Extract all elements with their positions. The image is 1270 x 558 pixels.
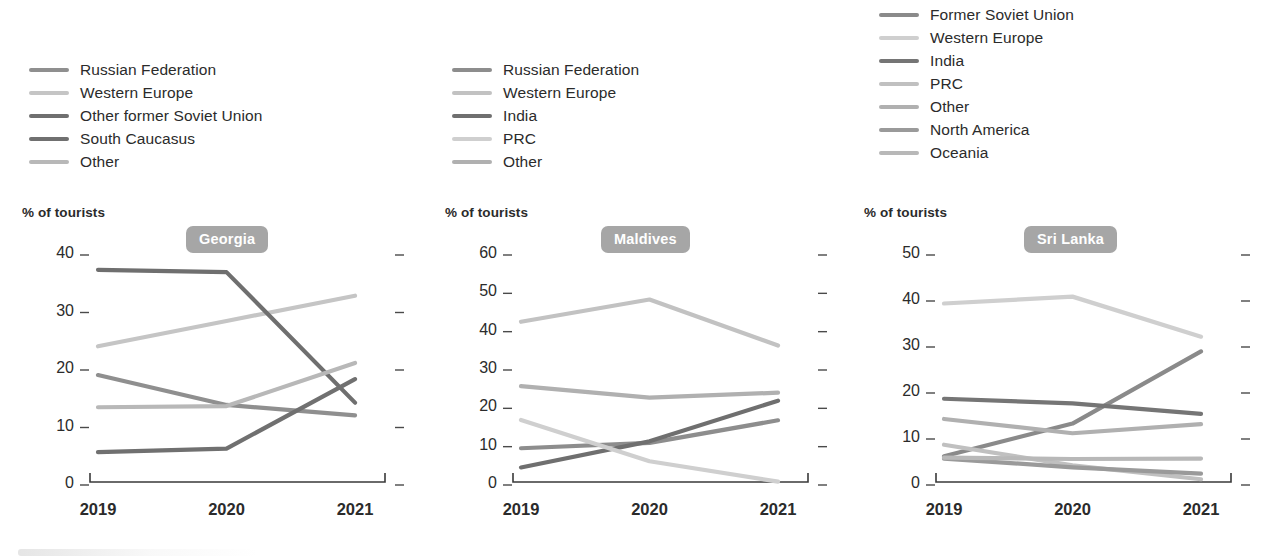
- series-line: [521, 300, 778, 346]
- legend-swatch-icon: [879, 59, 919, 63]
- legend-item[interactable]: PRC: [452, 127, 875, 150]
- legend-georgia: Russian FederationWestern EuropeOther fo…: [29, 58, 452, 173]
- legend-swatch-icon: [452, 160, 492, 164]
- y-tick-label: 0: [488, 474, 497, 491]
- y-tick-label: 30: [479, 359, 497, 376]
- legend-item-label: Oceania: [930, 141, 988, 164]
- legend-item-label: Former Soviet Union: [930, 3, 1074, 26]
- x-tick-label: 2020: [1054, 500, 1091, 518]
- legend-item[interactable]: Other: [29, 150, 452, 173]
- y-tick-label: 50: [479, 282, 497, 299]
- plot-area-maldives: 0102030405060201920202021: [423, 230, 846, 530]
- x-tick-label: 2021: [760, 500, 797, 518]
- legend-swatch-icon: [879, 82, 919, 86]
- footer-artifact: [18, 549, 258, 556]
- y-tick-label: 50: [902, 244, 920, 261]
- legend-item-label: Western Europe: [930, 26, 1043, 49]
- legend-swatch-icon: [29, 68, 69, 72]
- legend-swatch-icon: [29, 160, 69, 164]
- legend-swatch-icon: [452, 114, 492, 118]
- chart-panel-srilanka: Former Soviet UnionWestern EuropeIndiaPR…: [846, 0, 1269, 558]
- legend-item-label: Other: [80, 150, 119, 173]
- legend-swatch-icon: [29, 91, 69, 95]
- legend-item-label: Other: [503, 150, 542, 173]
- legend-swatch-icon: [452, 91, 492, 95]
- legend-item[interactable]: North America: [879, 118, 1270, 141]
- plot-area-srilanka: 01020304050201920202021: [846, 230, 1269, 530]
- legend-item[interactable]: Oceania: [879, 141, 1270, 164]
- legend-item[interactable]: Other former Soviet Union: [29, 104, 452, 127]
- legend-item[interactable]: PRC: [879, 72, 1270, 95]
- legend-item[interactable]: Russian Federation: [29, 58, 452, 81]
- series-line: [521, 386, 778, 398]
- y-tick-label: 40: [56, 244, 74, 261]
- plot-svg-georgia: 010203040201920202021: [0, 230, 423, 530]
- legend-item[interactable]: South Caucasus: [29, 127, 452, 150]
- y-tick-label: 30: [902, 336, 920, 353]
- legend-item[interactable]: India: [452, 104, 875, 127]
- x-tick-label: 2019: [503, 500, 540, 518]
- series-line: [98, 379, 355, 452]
- legend-swatch-icon: [879, 128, 919, 132]
- legend-swatch-icon: [879, 151, 919, 155]
- legend-item-label: PRC: [930, 72, 963, 95]
- legend-item[interactable]: Western Europe: [879, 26, 1270, 49]
- legend-item-label: Other former Soviet Union: [80, 104, 263, 127]
- legend-item[interactable]: Former Soviet Union: [879, 3, 1270, 26]
- y-tick-label: 20: [56, 359, 74, 376]
- legend-item-label: Russian Federation: [80, 58, 216, 81]
- legend-swatch-icon: [29, 114, 69, 118]
- axis-label-georgia: % of tourists: [22, 205, 105, 220]
- series-line: [944, 458, 1201, 459]
- chart-panel-georgia: Russian FederationWestern EuropeOther fo…: [0, 0, 423, 558]
- y-tick-label: 60: [479, 244, 497, 261]
- x-axis-line: [90, 473, 385, 482]
- legend-swatch-icon: [879, 105, 919, 109]
- legend-srilanka: Former Soviet UnionWestern EuropeIndiaPR…: [879, 3, 1270, 164]
- series-line: [944, 399, 1201, 414]
- legend-item[interactable]: India: [879, 49, 1270, 72]
- legend-item-label: North America: [930, 118, 1030, 141]
- y-tick-label: 30: [56, 302, 74, 319]
- y-tick-label: 20: [902, 382, 920, 399]
- plot-area-georgia: 010203040201920202021: [0, 230, 423, 530]
- plot-svg-maldives: 0102030405060201920202021: [423, 230, 846, 530]
- plot-svg-srilanka: 01020304050201920202021: [846, 230, 1269, 530]
- x-tick-label: 2019: [926, 500, 963, 518]
- chart-panel-maldives: Russian FederationWestern EuropeIndiaPRC…: [423, 0, 846, 558]
- axis-label-maldives: % of tourists: [445, 205, 528, 220]
- legend-item[interactable]: Other: [452, 150, 875, 173]
- x-tick-label: 2020: [631, 500, 668, 518]
- y-tick-label: 0: [911, 474, 920, 491]
- y-tick-label: 10: [902, 428, 920, 445]
- series-line: [98, 296, 355, 347]
- y-tick-label: 0: [65, 474, 74, 491]
- x-tick-label: 2021: [337, 500, 374, 518]
- legend-item-label: India: [503, 104, 537, 127]
- legend-swatch-icon: [29, 137, 69, 141]
- legend-item-label: Russian Federation: [503, 58, 639, 81]
- legend-item[interactable]: Western Europe: [29, 81, 452, 104]
- y-tick-label: 10: [56, 417, 74, 434]
- legend-swatch-icon: [452, 68, 492, 72]
- legend-item-label: Western Europe: [503, 81, 616, 104]
- legend-item[interactable]: Other: [879, 95, 1270, 118]
- series-line: [944, 297, 1201, 337]
- legend-item-label: South Caucasus: [80, 127, 195, 150]
- axis-label-srilanka: % of tourists: [864, 205, 947, 220]
- legend-swatch-icon: [879, 13, 919, 17]
- legend-item[interactable]: Western Europe: [452, 81, 875, 104]
- legend-item-label: Western Europe: [80, 81, 193, 104]
- legend-item-label: PRC: [503, 127, 536, 150]
- legend-swatch-icon: [879, 36, 919, 40]
- y-tick-label: 10: [479, 436, 497, 453]
- series-line: [944, 419, 1201, 433]
- legend-swatch-icon: [452, 137, 492, 141]
- x-tick-label: 2019: [80, 500, 117, 518]
- legend-maldives: Russian FederationWestern EuropeIndiaPRC…: [452, 58, 875, 173]
- x-tick-label: 2020: [208, 500, 245, 518]
- legend-item-label: India: [930, 49, 964, 72]
- legend-item[interactable]: Russian Federation: [452, 58, 875, 81]
- charts-container: Russian FederationWestern EuropeOther fo…: [0, 0, 1270, 558]
- y-tick-label: 40: [479, 321, 497, 338]
